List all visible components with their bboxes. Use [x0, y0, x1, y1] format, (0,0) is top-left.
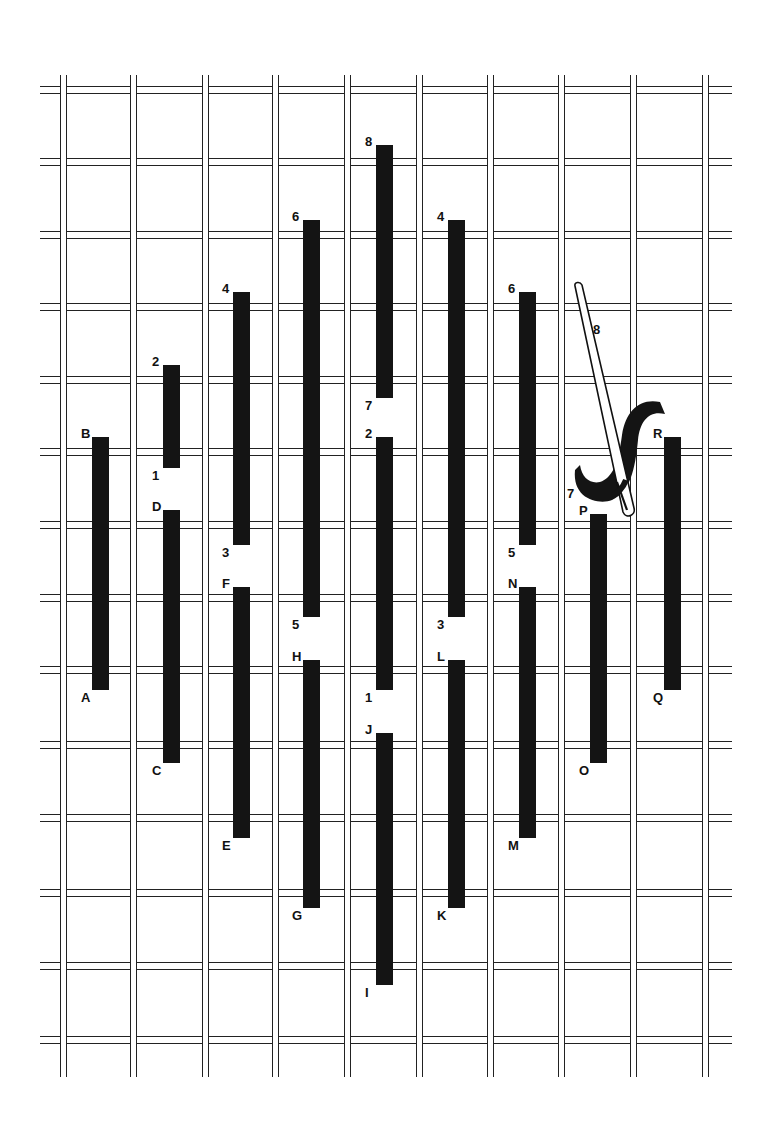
needle-label-8: 8: [593, 323, 600, 336]
needle-label-7: 7: [567, 487, 574, 500]
needle-and-thread-icon: [0, 0, 770, 1127]
stitch-diagram: BA21DC43FE65HG8721JI43LK65NMPORQ 8 7: [0, 0, 770, 1127]
